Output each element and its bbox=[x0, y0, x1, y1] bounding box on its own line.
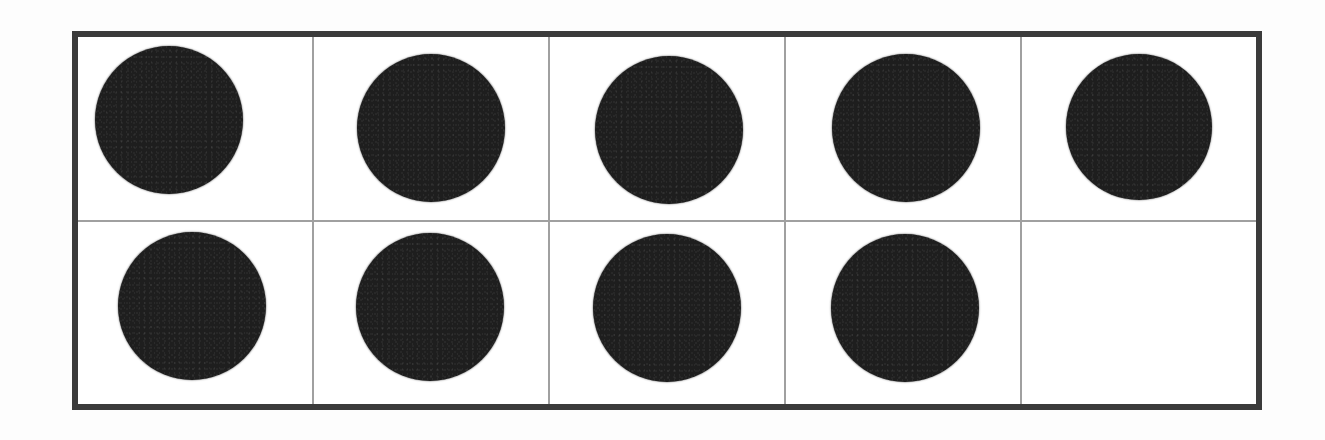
ten-frame-cell-r1c1[interactable] bbox=[78, 37, 312, 220]
counter-dot[interactable] bbox=[593, 234, 741, 382]
ten-frame-row-2 bbox=[78, 220, 1256, 405]
ten-frame-cell-r2c3[interactable] bbox=[548, 222, 784, 405]
counter-dot[interactable] bbox=[357, 54, 505, 202]
ten-frame-cell-r2c5-empty[interactable] bbox=[1020, 222, 1256, 405]
counter-dot[interactable] bbox=[95, 46, 243, 194]
ten-frame-cell-r2c1[interactable] bbox=[78, 222, 312, 405]
counter-dot[interactable] bbox=[1066, 54, 1212, 200]
ten-frame-cell-r1c2[interactable] bbox=[312, 37, 548, 220]
counter-dot[interactable] bbox=[356, 233, 504, 381]
ten-frame-cell-r1c4[interactable] bbox=[784, 37, 1020, 220]
ten-frame-grid bbox=[72, 31, 1262, 410]
ten-frame-cell-r1c3[interactable] bbox=[548, 37, 784, 220]
ten-frame-cell-r2c4[interactable] bbox=[784, 222, 1020, 405]
ten-frame-cell-r1c5[interactable] bbox=[1020, 37, 1256, 220]
counter-dot[interactable] bbox=[595, 56, 743, 204]
counter-dot[interactable] bbox=[831, 234, 979, 382]
ten-frame-cell-r2c2[interactable] bbox=[312, 222, 548, 405]
counter-dot[interactable] bbox=[832, 54, 980, 202]
counter-dot[interactable] bbox=[118, 232, 266, 380]
worksheet-page bbox=[0, 0, 1325, 440]
ten-frame-row-1 bbox=[78, 37, 1256, 220]
